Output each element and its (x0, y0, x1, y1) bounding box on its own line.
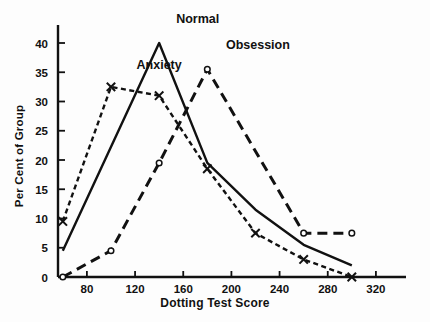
marker-x-anxiety (203, 165, 211, 173)
marker-circle-obsession (301, 230, 307, 236)
series-label-anxiety: Anxiety (137, 58, 182, 72)
data-series-group (63, 43, 352, 277)
x-tick-label: 160 (174, 283, 193, 295)
y-tick-label: 25 (35, 125, 48, 137)
y-tick-label: 35 (35, 67, 48, 79)
x-tick-label: 320 (366, 283, 385, 295)
marker-circle-obsession (205, 67, 211, 73)
y-tick-label: 10 (35, 213, 48, 225)
series-label-obsession: Obsession (226, 38, 290, 52)
x-tick-label: 240 (270, 283, 289, 295)
marker-x-anxiety (251, 229, 259, 237)
series-line-anxiety (63, 87, 352, 277)
y-tick-label: 20 (35, 155, 48, 167)
y-tick-label: 0 (42, 272, 48, 284)
chart-figure: Per Cent of Group 8012016020024028032005… (0, 0, 430, 322)
marker-circle-obsession (349, 230, 355, 236)
y-tick-label: 5 (42, 242, 49, 254)
y-tick-label: 40 (35, 38, 48, 50)
chart-plot-area: 801201602002402803200510152025303540 Anx… (0, 0, 430, 322)
y-tick-label: 15 (35, 184, 48, 196)
x-axis-label: Dotting Test Score (0, 296, 430, 310)
series-label-normal: Normal (176, 12, 219, 26)
marker-circle-obsession (60, 274, 66, 280)
marker-circle-obsession (156, 160, 162, 166)
x-tick-label: 200 (222, 283, 241, 295)
x-tick-label: 280 (318, 283, 337, 295)
marker-circle-obsession (108, 248, 114, 254)
x-tick-label: 120 (125, 283, 144, 295)
y-tick-label: 30 (35, 96, 48, 108)
x-tick-label: 80 (81, 283, 94, 295)
